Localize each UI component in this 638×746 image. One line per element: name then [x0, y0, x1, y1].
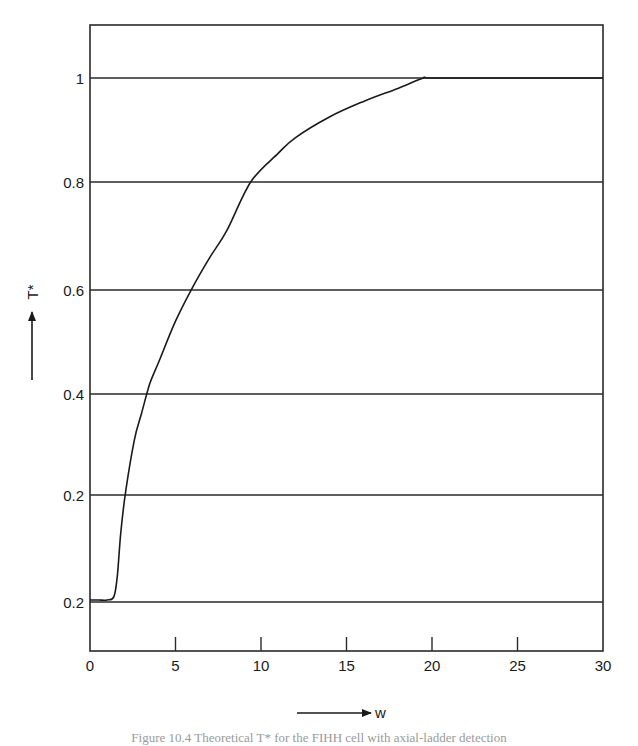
plot-frame — [90, 25, 603, 651]
y-tick-label: 0.4 — [63, 386, 84, 403]
x-axis-ticks — [176, 637, 518, 651]
y-tick-label: 1 — [76, 70, 84, 87]
x-tick-label: 15 — [338, 657, 355, 674]
figure-caption: Figure 10.4 Theoretical T* for the FIHH … — [0, 730, 638, 746]
x-axis-label-group: w — [297, 704, 386, 721]
y-axis-label-group: T* — [24, 284, 41, 380]
y-tick-label: 0.6 — [63, 282, 84, 299]
y-axis-tick-labels: 10.80.60.40.20.2 — [63, 70, 84, 611]
y-tick-label: 0.2 — [63, 594, 84, 611]
x-tick-label: 25 — [509, 657, 526, 674]
t-star-curve — [90, 77, 603, 600]
x-tick-label: 10 — [253, 657, 270, 674]
y-tick-label: 0.8 — [63, 174, 84, 191]
x-tick-label: 0 — [86, 657, 94, 674]
x-tick-label: 20 — [424, 657, 441, 674]
y-tick-label: 0.2 — [63, 487, 84, 504]
y-axis-label: T* — [24, 284, 41, 299]
x-axis-tick-labels: 051015202530 — [86, 657, 612, 674]
x-axis-label: w — [374, 704, 386, 721]
x-tick-label: 5 — [171, 657, 179, 674]
x-tick-label: 30 — [595, 657, 612, 674]
